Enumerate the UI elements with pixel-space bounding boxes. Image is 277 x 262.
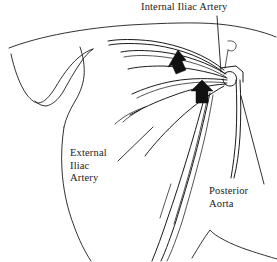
label-internal-iliac-artery: Internal Iliac Artery bbox=[141, 1, 228, 14]
label-posterior-aorta-line-2: Aorta bbox=[209, 198, 248, 211]
scapula-spine-curve bbox=[64, 47, 84, 127]
iliac-branch-3 bbox=[132, 79, 227, 94]
iliac-branch-3-inner bbox=[137, 82, 227, 98]
vessel-hook-stem bbox=[225, 50, 228, 68]
scapula-outline bbox=[11, 49, 93, 103]
label-internal-iliac-line-1: Internal Iliac Artery bbox=[141, 1, 228, 14]
vessel-hook-curl bbox=[228, 41, 236, 51]
label-external-iliac-line-2: Iliac bbox=[70, 160, 107, 173]
posterior-aorta-leader-line bbox=[241, 96, 264, 184]
leader-lines-group bbox=[118, 16, 264, 184]
label-external-iliac-line-3: Artery bbox=[70, 172, 107, 185]
label-posterior-aorta-line-1: Posterior bbox=[209, 185, 248, 198]
descending-aorta-left bbox=[152, 92, 206, 261]
external-iliac-leader-line bbox=[118, 127, 153, 161]
label-posterior-aorta: Posterior Aorta bbox=[209, 185, 248, 210]
body-outline-group bbox=[9, 23, 277, 261]
aorta-trunk-right-inner bbox=[231, 80, 237, 178]
scapula-inner-edge bbox=[35, 49, 93, 106]
label-external-iliac-artery: External Iliac Artery bbox=[70, 147, 107, 185]
descending-aorta-inner bbox=[174, 96, 208, 224]
lower-body-contour-right bbox=[192, 230, 277, 259]
aortic-arch-upper bbox=[108, 40, 224, 71]
block-arrow-lower bbox=[191, 80, 213, 103]
aorta-trunk-right bbox=[234, 80, 241, 178]
external-iliac-artery bbox=[145, 86, 224, 156]
label-external-iliac-line-1: External bbox=[70, 147, 107, 160]
vessel-ostium-loop bbox=[223, 72, 237, 86]
anatomy-diagram: Internal Iliac Artery External Iliac Art… bbox=[0, 0, 277, 262]
anatomy-linework bbox=[0, 0, 277, 262]
